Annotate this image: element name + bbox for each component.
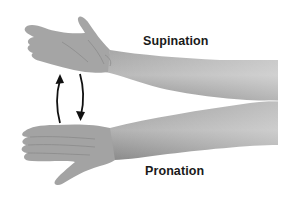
pronation-label: Pronation (145, 164, 204, 178)
rotation-arrows (56, 74, 86, 123)
arrow-up-head-icon (56, 74, 65, 84)
forearm-rotation-diagram: Supination Pronation (0, 0, 299, 202)
supinated-arm (25, 16, 280, 102)
supination-label: Supination (143, 34, 209, 48)
arrow-down-head-icon (76, 111, 85, 121)
arrow-down-icon (80, 74, 83, 115)
arrow-up-icon (57, 80, 60, 123)
